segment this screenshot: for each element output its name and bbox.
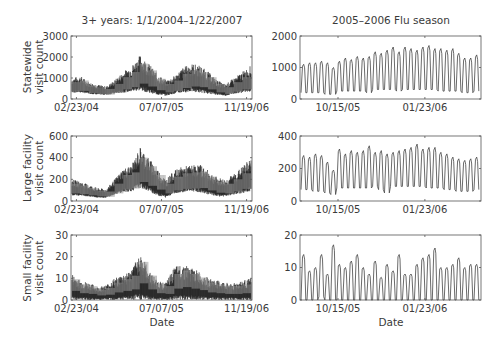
series-line xyxy=(72,148,251,198)
y-tick-label: 200 xyxy=(278,163,297,174)
y-tick-label: 2000 xyxy=(43,52,68,63)
x-tick-label: 10/15/05 xyxy=(316,204,361,215)
x-tick-label: 07/07/05 xyxy=(139,303,184,314)
x-tick-label: 10/15/05 xyxy=(316,303,361,314)
x-tick-label: 10/15/05 xyxy=(316,102,361,113)
x-tick-label: 11/19/06 xyxy=(224,204,269,215)
series-line xyxy=(301,46,479,95)
y-tick-label: 20 xyxy=(55,251,68,262)
x-tick-label: 02/23/04 xyxy=(54,204,99,215)
panel-3: 020040060002/23/0407/07/0511/19/06 xyxy=(49,131,269,216)
y-tick-label: 400 xyxy=(278,131,297,142)
x-tick-label: 07/07/05 xyxy=(139,204,184,215)
y-tick-label: 0 xyxy=(291,94,297,105)
y-tick-label: 1000 xyxy=(43,73,68,84)
y-tick-label: 10 xyxy=(284,262,297,273)
y-tick-label: 200 xyxy=(49,174,68,185)
panel-2: 01000200010/15/0501/23/06 xyxy=(272,31,481,114)
series-shade xyxy=(72,64,251,95)
x-tick-label: 01/23/06 xyxy=(402,204,447,215)
x-tick-label: 07/07/05 xyxy=(139,102,184,113)
x-tick-label: 01/23/06 xyxy=(402,102,447,113)
y-tick-label: 2000 xyxy=(272,31,297,42)
y-tick-label: 400 xyxy=(49,152,68,163)
y-tick-label: 1000 xyxy=(272,62,297,73)
x-tick-label: 11/19/06 xyxy=(224,303,269,314)
x-tick-label: 02/23/04 xyxy=(54,303,99,314)
y-tick-label: 10 xyxy=(55,273,68,284)
x-tick-label: 11/19/06 xyxy=(224,102,269,113)
panel-4: 020040010/15/0501/23/06 xyxy=(278,131,481,216)
panel-1: 010002000300002/23/0407/07/0511/19/06 xyxy=(43,31,269,114)
y-tick-label: 20 xyxy=(284,230,297,241)
y-tick-label: 3000 xyxy=(43,31,68,42)
y-tick-label: 0 xyxy=(291,295,297,306)
chart-canvas: 010002000300002/23/0407/07/0511/19/06010… xyxy=(0,0,498,344)
x-tick-label: 02/23/04 xyxy=(54,102,99,113)
panel-6: 0102010/15/0501/23/06 xyxy=(284,230,481,315)
series-line xyxy=(301,144,479,194)
series-shade xyxy=(72,262,251,296)
y-tick-label: 600 xyxy=(49,131,68,142)
panel-5: 010203002/23/0407/07/0511/19/06 xyxy=(54,230,269,315)
series-line xyxy=(301,245,479,300)
y-tick-label: 30 xyxy=(55,230,68,241)
x-tick-label: 01/23/06 xyxy=(402,303,447,314)
y-tick-label: 0 xyxy=(291,196,297,207)
